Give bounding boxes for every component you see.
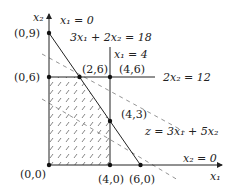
point-4-3 [108,119,112,123]
label-x1-0: x₁ = 0 [60,14,94,27]
label-point-0-0: (0,0) [20,168,46,181]
label-2x2-12: 2x₂ = 12 [162,71,211,84]
label-objective: z = 3x₁ + 5x₂ [144,125,218,138]
label-x1-4: x₁ = 4 [114,48,148,61]
label-point-0-9: (0,9) [14,27,40,40]
label-point-2-6: (2,6) [82,63,108,76]
label-point-4-6: (4,6) [119,63,145,76]
label-3x1-2x2-18: 3x₁ + 2x₂ = 18 [70,31,152,44]
lp-diagram: x₂ x₁ x₁ = 0 3x₁ + 2x₂ = 18 x₁ = 4 2x₂ =… [0,0,233,195]
label-point-6-0: (6,0) [129,173,155,186]
x2-axis-label: x₂ [33,11,44,24]
label-point-4-3: (4,3) [121,108,147,121]
point-0-0 [47,163,51,167]
label-point-0-6: (0,6) [14,71,40,84]
point-4-6 [108,75,112,79]
point-6-0 [138,163,142,167]
label-point-4-0: (4,0) [98,173,124,186]
x1-axis-label: x₁ [210,170,221,183]
point-4-0 [108,163,112,167]
point-0-9 [47,31,51,35]
point-0-6 [47,75,51,79]
label-x2-0: x₂ = 0 [183,152,217,165]
